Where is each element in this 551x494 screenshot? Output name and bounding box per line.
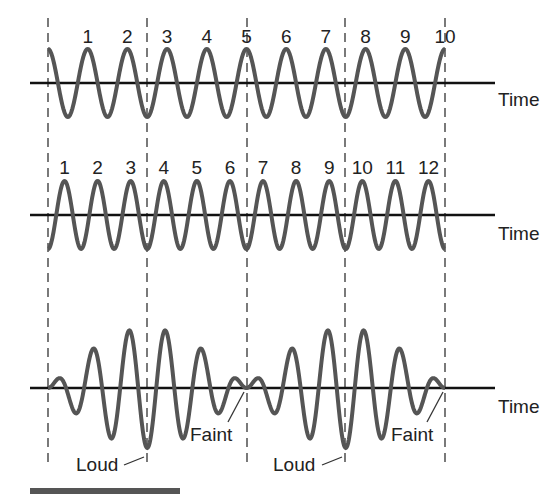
cycle-label: 3	[125, 157, 136, 178]
cycle-label: 8	[291, 157, 302, 178]
decorative-bar	[30, 488, 180, 494]
cycle-label: 7	[321, 26, 332, 47]
cycle-label: 11	[386, 157, 406, 178]
svg-text:Loud: Loud	[273, 454, 315, 475]
cycle-label: 10	[352, 157, 373, 178]
cycle-label: 1	[59, 157, 70, 178]
cycle-label: 7	[258, 157, 269, 178]
annotation-faint-1: Faint	[190, 392, 244, 445]
annotation-faint-2: Faint	[391, 392, 443, 445]
time-label-b: Time	[498, 223, 540, 244]
svg-text:Faint: Faint	[190, 424, 233, 445]
cycle-label: 9	[400, 26, 411, 47]
cycle-label: 5	[241, 26, 252, 47]
dashed-guides	[48, 18, 445, 465]
cycle-label: 12	[418, 157, 439, 178]
cycle-label: 10	[434, 26, 455, 47]
cycle-label: 8	[360, 26, 371, 47]
cycle-label: 4	[159, 157, 170, 178]
beats-diagram: 12345678910 123456789101112 Time Time Ti…	[0, 0, 551, 494]
cycle-label: 6	[225, 157, 236, 178]
time-label-a: Time	[498, 89, 540, 110]
cycle-label: 3	[162, 26, 173, 47]
svg-text:Loud: Loud	[76, 454, 118, 475]
cycle-label: 1	[82, 26, 93, 47]
cycle-label: 2	[122, 26, 133, 47]
annotation-loud-1: Loud	[76, 454, 144, 475]
cycle-label: 9	[324, 157, 335, 178]
wave-a-cycle-labels: 12345678910	[82, 26, 455, 47]
annotation-loud-2: Loud	[273, 454, 342, 475]
time-label-c: Time	[498, 396, 540, 417]
svg-text:Faint: Faint	[391, 424, 434, 445]
cycle-label: 4	[202, 26, 213, 47]
cycle-label: 2	[92, 157, 103, 178]
cycle-label: 5	[192, 157, 203, 178]
cycle-label: 6	[281, 26, 292, 47]
wave-b-cycle-labels: 123456789101112	[59, 157, 439, 178]
